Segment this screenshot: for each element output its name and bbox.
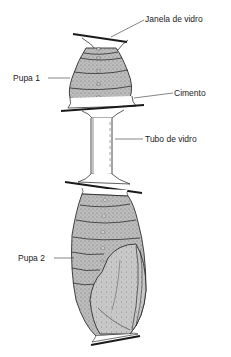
pupa-parabiosis-diagram	[0, 0, 231, 357]
label-cement: Cimento	[174, 89, 206, 98]
pupa-2-illustration	[65, 182, 146, 345]
glass-tube-illustration	[78, 110, 130, 184]
label-glass-tube: Tubo de vidro	[145, 135, 197, 144]
pupa-1-illustration	[61, 34, 144, 111]
label-glass-window: Janela de vidro	[145, 15, 203, 24]
label-pupa-1: Pupa 1	[13, 74, 40, 83]
label-pupa-2: Pupa 2	[18, 254, 45, 263]
